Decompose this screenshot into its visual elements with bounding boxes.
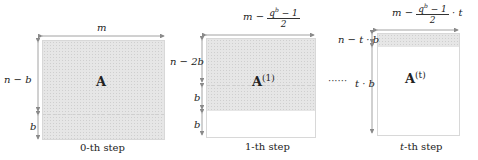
width-prefix: m − xyxy=(392,7,413,18)
fraction-numerator: qb − 1 xyxy=(267,5,300,19)
height-label: n − t · b xyxy=(338,34,379,45)
width-suffix: · t xyxy=(452,7,462,18)
width-label-step-0: m xyxy=(97,22,106,33)
matrix-name: A xyxy=(405,71,415,86)
ellipsis: ······ xyxy=(328,75,347,86)
height-label-n-minus-b: n − b xyxy=(4,74,32,85)
height-label-tb: t · b xyxy=(355,78,375,89)
caption-text: -th step xyxy=(404,141,443,152)
fraction: qb − 1 2 xyxy=(267,5,300,29)
width-label: m xyxy=(97,22,106,33)
caption-step-t: t-th step xyxy=(400,141,443,152)
fraction: qb − 1 2 xyxy=(416,1,449,25)
block-divider xyxy=(43,114,164,115)
matrix-label-A: A xyxy=(96,74,106,89)
caption-step-0: 0-th step xyxy=(80,142,125,153)
height-label: b xyxy=(194,92,200,103)
matrix-name: A xyxy=(252,74,262,89)
matrix-name: A xyxy=(96,74,106,89)
caption-step-1: 1-th step xyxy=(245,141,290,152)
height-label-b-2: b xyxy=(194,119,200,130)
width-label-step-1: m − qb − 1 2 xyxy=(243,5,300,29)
fraction-denominator: 2 xyxy=(281,19,287,29)
numerator-rest: − 1 xyxy=(279,8,298,18)
matrix-superscript: (t) xyxy=(415,70,426,80)
matrix-label-A1: A(1) xyxy=(252,73,275,89)
matrix-label-At: A(t) xyxy=(405,70,426,86)
width-label-step-t: m − qb − 1 2 · t xyxy=(392,1,462,25)
height-label-b-1: b xyxy=(194,92,200,103)
ellipsis-text: ······ xyxy=(328,75,347,86)
fraction-numerator: qb − 1 xyxy=(416,1,449,15)
height-label: b xyxy=(30,121,36,132)
height-label: n − b xyxy=(4,74,32,85)
matrix-A-step-0 xyxy=(42,40,165,140)
fraction-denominator: 2 xyxy=(430,15,436,25)
numerator-rest: − 1 xyxy=(428,4,447,14)
height-label: n − 2b xyxy=(170,56,204,67)
width-prefix: m − xyxy=(243,11,264,22)
caption-text: 0-th step xyxy=(80,142,125,153)
height-label-b: b xyxy=(30,121,36,132)
height-label: b xyxy=(194,119,200,130)
shaded-region xyxy=(43,41,164,139)
height-label: t · b xyxy=(355,78,375,89)
height-label-n-minus-tb: n − t · b xyxy=(338,34,379,45)
matrix-superscript: (1) xyxy=(262,73,275,83)
shaded-region xyxy=(378,34,459,47)
caption-text: 1-th step xyxy=(245,141,290,152)
height-label-n-minus-2b: n − 2b xyxy=(170,56,204,67)
